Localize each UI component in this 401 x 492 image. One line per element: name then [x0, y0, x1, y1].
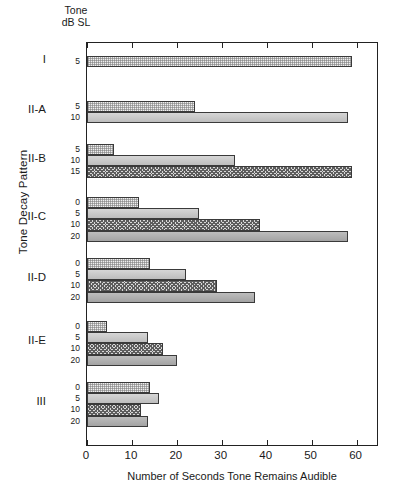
- pattern-label-ii-b: II-B: [8, 152, 46, 164]
- x-tick-label: 10: [116, 449, 146, 461]
- series-header-line2: dB SL: [44, 16, 108, 28]
- db-sl-value: 20: [52, 356, 80, 367]
- bar-ii-c-0db: [87, 197, 139, 208]
- db-sl-value: 10: [52, 344, 80, 355]
- bar-ii-e-20db: [87, 355, 177, 366]
- db-sl-column: 051020: [52, 383, 80, 428]
- x-tick-label: 60: [341, 449, 371, 461]
- bar-ii-c-20db: [87, 231, 348, 242]
- pattern-label-ii-a: II-A: [8, 103, 46, 115]
- db-sl-value: 15: [52, 167, 80, 178]
- x-tick-label: 30: [206, 449, 236, 461]
- db-sl-column: 051020: [52, 322, 80, 367]
- bar-iii-0db: [87, 382, 150, 393]
- x-tick-label: 40: [251, 449, 281, 461]
- bar-i-5db: [87, 56, 352, 67]
- bar-ii-d-5db: [87, 269, 186, 280]
- bar-ii-b-5db: [87, 144, 114, 155]
- db-sl-value: 5: [52, 57, 80, 68]
- plot-area: [86, 42, 378, 446]
- db-sl-column: 051020: [52, 198, 80, 243]
- pattern-label-ii-c: II-C: [8, 210, 46, 222]
- db-sl-column: 5: [52, 57, 80, 68]
- x-tick-top: [87, 43, 88, 48]
- y-axis-label: Tone Decay Pattern: [17, 122, 29, 282]
- x-tick-label: 0: [71, 449, 101, 461]
- x-tick-bottom: [267, 440, 268, 445]
- bar-iii-5db: [87, 393, 159, 404]
- x-tick-label: 20: [161, 449, 191, 461]
- bar-ii-a-10db: [87, 112, 348, 123]
- x-tick-bottom: [177, 440, 178, 445]
- bar-ii-d-20db: [87, 292, 255, 303]
- x-tick-bottom: [357, 440, 358, 445]
- bar-ii-e-10db: [87, 343, 163, 354]
- x-tick-top: [177, 43, 178, 48]
- bar-ii-c-5db: [87, 208, 199, 219]
- db-sl-column: 51015: [52, 145, 80, 179]
- bar-ii-b-10db: [87, 155, 235, 166]
- bar-ii-e-5db: [87, 332, 148, 343]
- series-header: Tone dB SL: [44, 4, 108, 28]
- pattern-label-i: I: [8, 53, 46, 65]
- db-sl-value: 20: [52, 232, 80, 243]
- x-tick-label: 50: [296, 449, 326, 461]
- bar-iii-20db: [87, 416, 148, 427]
- x-tick-top: [222, 43, 223, 48]
- bar-ii-c-10db: [87, 219, 260, 230]
- x-axis-label: Number of Seconds Tone Remains Audible: [86, 470, 378, 482]
- db-sl-column: 510: [52, 102, 80, 124]
- db-sl-value: 10: [52, 281, 80, 292]
- x-tick-bottom: [312, 440, 313, 445]
- db-sl-value: 10: [52, 405, 80, 416]
- x-tick-top: [267, 43, 268, 48]
- x-tick-bottom: [222, 440, 223, 445]
- bar-ii-d-10db: [87, 280, 217, 291]
- x-tick-top: [357, 43, 358, 48]
- pattern-label-iii: III: [8, 395, 46, 407]
- db-sl-value: 20: [52, 293, 80, 304]
- pattern-label-ii-e: II-E: [8, 334, 46, 346]
- series-header-line1: Tone: [44, 4, 108, 16]
- db-sl-column: 051020: [52, 259, 80, 304]
- db-sl-value: 20: [52, 417, 80, 428]
- bar-iii-10db: [87, 404, 141, 415]
- x-tick-top: [132, 43, 133, 48]
- tone-decay-bar-chart: Tone dB SL Tone Decay Pattern Number of …: [0, 0, 401, 492]
- x-tick-top: [312, 43, 313, 48]
- pattern-label-ii-d: II-D: [8, 271, 46, 283]
- db-sl-value: 10: [52, 113, 80, 124]
- bar-ii-a-5db: [87, 101, 195, 112]
- bar-ii-b-15db: [87, 166, 352, 177]
- x-tick-bottom: [87, 440, 88, 445]
- x-tick-bottom: [132, 440, 133, 445]
- bar-ii-e-0db: [87, 321, 107, 332]
- bar-ii-d-0db: [87, 258, 150, 269]
- db-sl-value: 10: [52, 220, 80, 231]
